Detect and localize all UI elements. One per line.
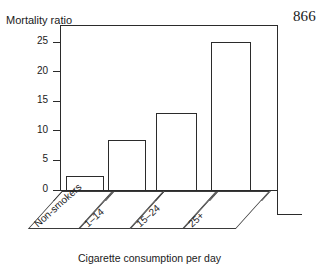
y-axis-tick	[53, 42, 61, 43]
plot-frame-top	[60, 25, 278, 26]
baseline-stub	[277, 214, 302, 215]
y-axis-tick-label: 10	[22, 124, 48, 135]
y-axis-tick-label: 5	[22, 153, 48, 164]
y-axis-tick	[53, 190, 61, 191]
mortality-ratio-bar-chart: 866 Mortality ratio 0510152025 Non-smoke…	[0, 0, 322, 274]
y-axis-tick-label: 20	[22, 65, 48, 76]
y-axis-line	[60, 25, 61, 191]
y-axis-tick-label: 15	[22, 94, 48, 105]
y-axis-tick	[53, 130, 61, 131]
y-axis-tick	[53, 160, 61, 161]
y-axis-tick-label: 0	[22, 183, 48, 194]
x-axis-title: Cigarette consumption per day	[78, 252, 221, 264]
bar	[211, 42, 251, 190]
y-axis-tick-label: 25	[22, 35, 48, 46]
plot-frame-right	[277, 25, 278, 215]
bar	[108, 140, 146, 190]
y-axis-tick	[53, 71, 61, 72]
page-number: 866	[293, 8, 316, 25]
y-axis-tick	[53, 101, 61, 102]
plot-frame-right-lower	[277, 190, 278, 215]
bar	[156, 113, 197, 190]
